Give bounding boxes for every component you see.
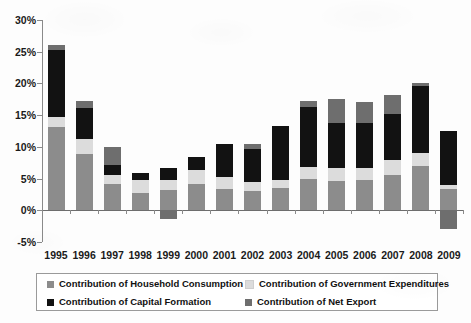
x-axis-label-2002: 2002 bbox=[238, 250, 266, 261]
y-tick-label: 5% bbox=[2, 174, 36, 185]
legend-label-household-consumption: Contribution of Household Consumption bbox=[59, 279, 243, 289]
bar-segment bbox=[272, 126, 289, 180]
bar-segment bbox=[328, 123, 345, 168]
x-axis-label-2001: 2001 bbox=[210, 250, 238, 261]
x-tick-mark bbox=[182, 210, 183, 214]
x-tick-mark bbox=[295, 210, 296, 214]
bar-segment bbox=[216, 144, 233, 176]
y-tick-label: 15% bbox=[2, 110, 36, 121]
bar-segment bbox=[188, 184, 205, 211]
x-tick-mark bbox=[238, 210, 239, 214]
x-tick-mark bbox=[435, 210, 436, 214]
bar-segment bbox=[440, 189, 457, 211]
bar-group-2000 bbox=[188, 20, 205, 242]
bar-segment bbox=[132, 173, 149, 181]
x-axis-label-2006: 2006 bbox=[351, 250, 379, 261]
x-axis-label-2003: 2003 bbox=[267, 250, 295, 261]
bar-segment bbox=[440, 185, 457, 189]
x-axis-label-2009: 2009 bbox=[435, 250, 463, 261]
bar-group-1996 bbox=[76, 20, 93, 242]
bar-segment bbox=[48, 127, 65, 210]
x-tick-mark bbox=[323, 210, 324, 214]
bar-segment bbox=[384, 175, 401, 211]
bar-segment bbox=[412, 153, 429, 166]
y-tick-label: 25% bbox=[2, 47, 36, 58]
x-tick-mark bbox=[126, 210, 127, 214]
bar-segment bbox=[244, 182, 261, 190]
bar-segment bbox=[356, 168, 373, 181]
bar-segment bbox=[440, 131, 457, 185]
legend-swatch-net-export bbox=[245, 299, 252, 306]
bar-segment bbox=[384, 95, 401, 114]
bar-group-2008 bbox=[412, 20, 429, 242]
y-tick-label: 0% bbox=[2, 205, 36, 216]
x-axis-label-1999: 1999 bbox=[154, 250, 182, 261]
x-axis-label-2005: 2005 bbox=[323, 250, 351, 261]
bar-segment bbox=[356, 123, 373, 167]
bar-segment bbox=[300, 167, 317, 179]
chart-legend: Contribution of Household Consumption Co… bbox=[36, 273, 438, 311]
bar-segment bbox=[328, 181, 345, 210]
y-tick-label: 10% bbox=[2, 142, 36, 153]
x-axis-label-1998: 1998 bbox=[126, 250, 154, 261]
bar-segment bbox=[48, 50, 65, 117]
bar-segment bbox=[216, 189, 233, 211]
bar-segment bbox=[132, 180, 149, 192]
legend-item-household-consumption: Contribution of Household Consumption bbox=[47, 275, 243, 293]
legend-label-net-export: Contribution of Net Export bbox=[257, 297, 376, 307]
legend-label-government-expenditures: Contribution of Government Expenditures bbox=[259, 279, 449, 289]
bar-segment bbox=[412, 166, 429, 210]
x-tick-mark bbox=[463, 210, 464, 214]
bar-segment bbox=[300, 101, 317, 107]
legend-swatch-government-expenditures bbox=[245, 280, 254, 289]
bar-segment bbox=[76, 154, 93, 210]
bar-group-2003 bbox=[272, 20, 289, 242]
x-axis-label-1996: 1996 bbox=[70, 250, 98, 261]
x-tick-mark bbox=[210, 210, 211, 214]
bar-group-2001 bbox=[216, 20, 233, 242]
bar-segment bbox=[300, 179, 317, 211]
x-tick-mark bbox=[407, 210, 408, 214]
bar-segment-negative bbox=[440, 210, 457, 229]
bar-segment bbox=[188, 170, 205, 184]
legend-swatch-household-consumption bbox=[47, 281, 54, 288]
bar-segment bbox=[412, 86, 429, 153]
legend-swatch-capital-formation bbox=[47, 299, 54, 306]
bar-segment bbox=[104, 165, 121, 175]
bar-group-2007 bbox=[384, 20, 401, 242]
bar-segment bbox=[132, 193, 149, 211]
bar-group-1997 bbox=[104, 20, 121, 242]
bar-segment bbox=[328, 168, 345, 181]
bar-segment bbox=[384, 160, 401, 175]
x-tick-mark bbox=[351, 210, 352, 214]
bar-segment bbox=[384, 114, 401, 160]
x-tick-mark bbox=[379, 210, 380, 214]
bar-group-2002 bbox=[244, 20, 261, 242]
x-axis-label-1997: 1997 bbox=[98, 250, 126, 261]
bar-segment bbox=[76, 139, 93, 154]
bar-segment bbox=[76, 108, 93, 140]
bar-segment bbox=[272, 180, 289, 188]
legend-row-2: Contribution of Capital Formation Contri… bbox=[37, 293, 437, 311]
bar-group-2005 bbox=[328, 20, 345, 242]
bar-segment bbox=[48, 117, 65, 127]
y-tick-label: 30% bbox=[2, 15, 36, 26]
bar-segment bbox=[412, 83, 429, 86]
bar-segment bbox=[160, 190, 177, 210]
bar-segment bbox=[244, 144, 261, 148]
bar-segment bbox=[244, 191, 261, 211]
bar-segment bbox=[104, 184, 121, 210]
x-tick-mark bbox=[70, 210, 71, 214]
bar-segment bbox=[76, 101, 93, 107]
x-axis-label-2000: 2000 bbox=[182, 250, 210, 261]
bar-segment bbox=[104, 175, 121, 185]
bar-group-1995 bbox=[48, 20, 65, 242]
bars-layer bbox=[42, 20, 463, 242]
x-axis-label-2007: 2007 bbox=[379, 250, 407, 261]
bar-group-2009 bbox=[440, 20, 457, 242]
bar-segment bbox=[272, 188, 289, 210]
x-tick-mark bbox=[154, 210, 155, 214]
bar-group-2004 bbox=[300, 20, 317, 242]
bar-group-1999 bbox=[160, 20, 177, 242]
legend-item-net-export: Contribution of Net Export bbox=[245, 293, 376, 311]
